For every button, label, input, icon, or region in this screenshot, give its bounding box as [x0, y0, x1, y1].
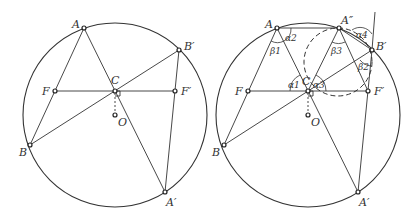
point-O: [306, 113, 310, 117]
label-B: B: [18, 146, 27, 159]
angle-label-alpha1: α1: [288, 80, 300, 90]
label-B-prime: B′: [183, 40, 195, 53]
label-B: B: [211, 146, 220, 159]
point-F: [246, 89, 250, 93]
angle-label-beta3: β3: [330, 46, 342, 56]
tangent-extension: [372, 12, 375, 50]
angle-label-alpha2: α2: [285, 33, 297, 43]
label-B-prime: B′: [375, 40, 387, 53]
geometry-diagram: A B′ C F F′ O B A′: [0, 0, 411, 222]
point-C: [113, 89, 117, 93]
label-A: A: [264, 18, 273, 31]
point-A: [82, 26, 86, 30]
label-A-prime: A′: [358, 196, 370, 209]
label-C: C: [111, 74, 120, 87]
point-F-prime: [173, 89, 177, 93]
point-B-prime: [370, 48, 374, 52]
label-F: F: [41, 85, 50, 98]
angle-label-alpha4: α4: [356, 30, 368, 40]
angle-label-beta1: β1: [269, 46, 281, 56]
label-O: O: [311, 116, 320, 129]
label-F: F: [234, 85, 243, 98]
segment-B'A': [165, 50, 179, 192]
point-A-prime: [163, 190, 167, 194]
angle-label-beta2: β2: [357, 62, 369, 72]
point-O: [113, 113, 117, 117]
label-O: O: [118, 116, 127, 129]
point-F: [53, 89, 57, 93]
point-B: [222, 143, 226, 147]
point-A-prime: [356, 190, 360, 194]
segment-AA': [277, 28, 358, 192]
angle-arc-beta3: [332, 42, 345, 43]
point-F-prime: [366, 89, 370, 93]
segment-BB': [224, 50, 372, 145]
segment-AA': [84, 28, 165, 192]
right-figure: A A″ B′ C F F′ O B A′ α2 β1 α1 α3 β3 α4 …: [211, 12, 400, 209]
point-B-prime: [177, 48, 181, 52]
label-F-prime: F′: [373, 85, 385, 98]
label-A-double-prime: A″: [340, 14, 354, 27]
label-A-prime: A′: [165, 196, 177, 209]
point-B: [28, 143, 32, 147]
label-F-prime: F′: [180, 85, 192, 98]
left-figure: A B′ C F F′ O B A′: [18, 18, 207, 209]
point-C: [306, 89, 310, 93]
angle-arc-beta1: [271, 41, 284, 43]
point-A: [275, 26, 279, 30]
label-A: A: [71, 18, 80, 31]
label-C: C: [302, 75, 311, 88]
angle-label-alpha3: α3: [313, 80, 325, 90]
